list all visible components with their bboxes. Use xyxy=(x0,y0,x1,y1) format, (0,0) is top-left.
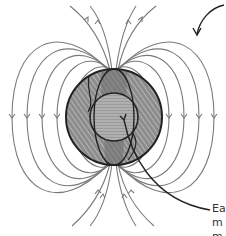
callout-text-line-3: m xyxy=(212,230,223,236)
callout-text-line-2: m xyxy=(212,216,223,230)
earth-globe xyxy=(66,60,162,175)
field-pointer xyxy=(197,5,224,34)
callout-text-line-1: Ea xyxy=(212,202,226,216)
field-illustration xyxy=(0,0,226,236)
magnetic-field-diagram: Ea m m xyxy=(0,0,226,236)
inner-core xyxy=(90,93,138,141)
